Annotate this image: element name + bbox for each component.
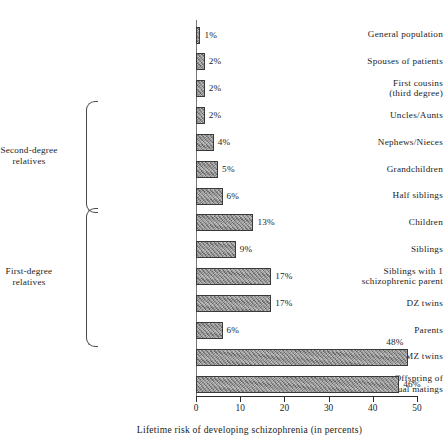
bar — [196, 295, 271, 312]
relative-degree-group: First-degree relatives — [86, 208, 97, 344]
bar-value-label: 2% — [209, 53, 222, 70]
bar — [196, 214, 253, 231]
plot-area: 1%2%2%2%4%5%6%13%9%17%17%6%48%46% — [196, 20, 443, 398]
bar-row: 2% — [196, 80, 443, 97]
x-axis-tick-label: 0 — [194, 403, 199, 414]
x-axis-title: Lifetime risk of developing schizophreni… — [0, 424, 443, 435]
relative-degree-group: Second-degree relatives — [86, 101, 97, 211]
bar — [196, 53, 205, 70]
x-axis-tick-label: 30 — [324, 403, 333, 414]
bar-row: 6% — [196, 188, 443, 205]
x-axis-tick — [196, 396, 197, 402]
x-axis-tick — [284, 396, 285, 402]
bar-row: 17% — [196, 295, 443, 312]
x-axis-tick — [240, 396, 241, 402]
group-label: Second-degree relatives — [0, 145, 81, 167]
x-axis-tick-label: 40 — [368, 403, 377, 414]
bar — [196, 161, 218, 178]
bar — [196, 80, 205, 97]
bar-value-label: 4% — [218, 134, 231, 151]
bar — [196, 322, 223, 339]
bar — [196, 268, 271, 285]
bar — [196, 241, 236, 258]
bar-value-label: 9% — [240, 241, 253, 258]
bar — [196, 107, 205, 124]
bar-value-label: 6% — [227, 188, 240, 205]
bar-value-label: 1% — [204, 27, 217, 44]
bar-value-label: 48% — [386, 337, 403, 348]
bar-row: 13% — [196, 214, 443, 231]
bar-value-label: 2% — [209, 80, 222, 97]
x-axis-tick-label: 50 — [412, 403, 421, 414]
bar-row: 5% — [196, 161, 443, 178]
bar — [196, 134, 214, 151]
x-axis-tick — [329, 396, 330, 402]
bar-row: 9% — [196, 241, 443, 258]
bar — [196, 349, 408, 366]
bar — [196, 27, 200, 44]
bar-value-label: 6% — [227, 322, 240, 339]
x-axis-tick — [417, 396, 418, 402]
x-axis-tick-label: 10 — [236, 403, 245, 414]
x-axis-tick-label: 20 — [280, 403, 289, 414]
bar-value-label: 17% — [275, 295, 292, 312]
group-brace-icon — [86, 208, 98, 346]
bar-value-label: 13% — [257, 214, 274, 231]
group-brace-icon — [86, 101, 98, 213]
bar-value-label: 46% — [403, 376, 420, 393]
bar-row: 4% — [196, 134, 443, 151]
bar-row: 2% — [196, 107, 443, 124]
bar — [196, 188, 223, 205]
bar-row: 17% — [196, 268, 443, 285]
group-label: First-degree relatives — [0, 266, 81, 288]
schizophrenia-risk-bar-chart: General populationSpouses of patientsFir… — [0, 0, 443, 447]
bar-row: 46% — [196, 376, 443, 393]
bar-row: 6% — [196, 322, 443, 339]
bar-value-label: 5% — [222, 161, 235, 178]
bar-value-label: 2% — [209, 107, 222, 124]
bar-row: 48% — [196, 349, 443, 366]
bar-row: 2% — [196, 53, 443, 70]
bar-row: 1% — [196, 27, 443, 44]
bar-value-label: 17% — [275, 268, 292, 285]
x-axis-tick — [373, 396, 374, 402]
bar — [196, 376, 399, 393]
